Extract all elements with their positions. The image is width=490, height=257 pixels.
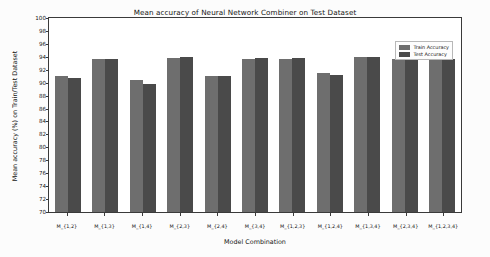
bar-group (49, 18, 86, 212)
y-tick-label: 84 (31, 118, 46, 124)
x-tick-mark (368, 213, 369, 216)
chart-title: Mean accuracy of Neural Network Combiner… (0, 8, 490, 17)
y-tick-mark (46, 212, 49, 213)
bar-test (405, 60, 418, 212)
x-tick-mark (142, 213, 143, 216)
y-tick-label: 80 (31, 144, 46, 150)
y-tick-label: 78 (31, 157, 46, 163)
bar-group (311, 18, 348, 212)
bar-test (68, 78, 81, 213)
y-tick-label: 74 (31, 183, 46, 189)
y-tick-label: 86 (31, 105, 46, 111)
bar-train (92, 59, 105, 212)
y-axis-label: Mean accuracy (%) on Train/Test Dataset (11, 18, 23, 214)
plot-area: Mean accuracy (%) on Train/Test Dataset … (48, 17, 462, 213)
bar-group (199, 18, 236, 212)
bar-test (105, 59, 118, 212)
y-tick-label: 96 (31, 40, 46, 46)
x-tick-mark (255, 213, 256, 216)
bar-group (236, 18, 273, 212)
bar-test (367, 57, 380, 212)
chart-legend: Train AccuracyTest Accuracy (395, 41, 453, 60)
y-tick-label: 72 (31, 196, 46, 202)
x-axis-ticks: M_{1,2}M_{1,3}M_{1,4}M_{2,3}M_{2,4}M_{3,… (48, 214, 462, 236)
bar-test (442, 59, 455, 212)
bar-group (86, 18, 123, 212)
x-tick-mark (104, 213, 105, 216)
y-tick-label: 92 (31, 66, 46, 72)
x-tick-label: M_{1,2,3,4} (412, 223, 474, 229)
y-tick-label: 76 (31, 170, 46, 176)
bar-train (55, 76, 68, 212)
bar-train (392, 59, 405, 212)
bar-test (330, 75, 343, 212)
legend-label: Train Accuracy (413, 44, 449, 50)
bar-test (218, 76, 231, 212)
bar-test (143, 84, 156, 212)
bar-test (255, 58, 268, 212)
bar-train (429, 58, 442, 212)
bar-train (317, 73, 330, 212)
x-tick: M_{1,2,3,4} (424, 214, 462, 236)
legend-item: Train Accuracy (399, 44, 449, 50)
bar-test (180, 57, 193, 212)
x-tick-mark (217, 213, 218, 216)
x-tick-mark (293, 213, 294, 216)
y-tick-label: 82 (31, 131, 46, 137)
legend-label: Test Accuracy (413, 51, 447, 57)
x-tick-mark (406, 213, 407, 216)
legend-item: Test Accuracy (399, 51, 449, 57)
bar-train (242, 59, 255, 212)
y-tick-label: 98 (31, 28, 46, 34)
x-axis-label: Model Combination (48, 238, 462, 246)
y-tick-label: 88 (31, 92, 46, 98)
legend-swatch-icon (399, 52, 410, 57)
bar-group (349, 18, 386, 212)
y-tick-label: 94 (31, 53, 46, 59)
bar-train (167, 58, 180, 212)
y-tick-label: 90 (31, 79, 46, 85)
x-tick-mark (443, 213, 444, 216)
bar-test (292, 58, 305, 212)
x-tick-mark (330, 213, 331, 216)
bar-group (124, 18, 161, 212)
y-tick-label: 100 (31, 15, 46, 21)
chart-figure: Mean accuracy of Neural Network Combiner… (0, 0, 490, 257)
x-tick-mark (67, 213, 68, 216)
bar-group (161, 18, 198, 212)
x-tick-mark (180, 213, 181, 216)
legend-swatch-icon (399, 45, 410, 50)
bar-train (205, 76, 218, 212)
bar-group (274, 18, 311, 212)
bar-train (130, 80, 143, 212)
y-tick-label: 70 (31, 209, 46, 215)
bar-train (354, 57, 367, 212)
bar-train (279, 59, 292, 212)
